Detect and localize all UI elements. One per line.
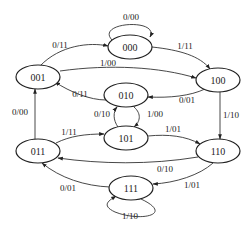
node-label-001: 001 (31, 72, 46, 83)
edge-label-111-111: 1/10 (122, 211, 139, 221)
node-110: 110 (196, 139, 240, 163)
edge-101-110 (148, 135, 200, 144)
edge-label-111-011: 0/01 (60, 183, 76, 193)
edge-label-000-100: 1/11 (177, 41, 193, 51)
edge-010-101 (134, 107, 139, 127)
edge-label-001-100: 1/00 (100, 58, 117, 68)
edge-label-110-011: 0/10 (157, 164, 174, 174)
node-label-011: 011 (31, 146, 46, 157)
edge-label-011-001: 0/00 (12, 107, 29, 117)
node-011: 011 (16, 139, 60, 163)
node-label-111: 111 (124, 183, 138, 194)
node-label-110: 110 (211, 146, 226, 157)
edge-101-010 (114, 107, 118, 127)
node-001: 001 (16, 65, 60, 89)
edge-label-000-000: 0/00 (123, 12, 140, 22)
edge-100-010 (148, 89, 205, 97)
node-000: 000 (108, 35, 152, 59)
node-label-000: 000 (123, 42, 138, 53)
edge-label-010-101: 1/00 (147, 109, 164, 119)
edge-label-101-110: 1/01 (165, 124, 181, 134)
state-diagram: 000 001 100 010 101 011 110 111 (0, 0, 250, 235)
node-label-101: 101 (119, 133, 134, 144)
node-label-100: 100 (211, 75, 226, 86)
edge-110-011 (58, 157, 198, 163)
edge-label-100-110: 1/10 (223, 110, 240, 120)
edge-label-101-010: 0/10 (94, 109, 111, 119)
node-010: 010 (104, 83, 148, 107)
node-101: 101 (104, 126, 148, 150)
edge-label-011-101: 1/11 (61, 127, 77, 137)
edge-001-000 (40, 44, 108, 66)
edge-label-100-010: 0/01 (179, 95, 195, 105)
edge-label-110-111: 1/01 (184, 180, 200, 190)
nodes: 000 001 100 010 101 011 110 111 (16, 35, 240, 200)
edge-label-001-000: 0/11 (52, 40, 68, 50)
edge-001-100 (60, 67, 196, 78)
edge-label-010-001: 0/11 (72, 89, 88, 99)
node-label-010: 010 (119, 90, 134, 101)
node-111: 111 (109, 176, 153, 200)
node-100: 100 (196, 68, 240, 92)
